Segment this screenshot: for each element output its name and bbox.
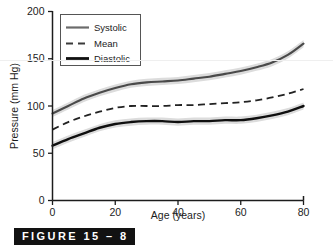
x-tick-label: 0 <box>50 206 56 218</box>
legend-label-systolic: Systolic <box>94 22 127 33</box>
legend-label-diastolic: Diastolic <box>94 53 130 64</box>
blood-pressure-chart: 050100150200 020406080 Pressure (mm Hg) … <box>0 0 333 222</box>
x-axis-title: Age (years) <box>151 209 205 221</box>
y-axis-ticks: 050100150200 <box>27 5 53 206</box>
figure-caption-text: FIGURE 15 – 8 <box>22 231 128 242</box>
x-tick-label: 20 <box>109 206 121 218</box>
y-tick-label: 200 <box>27 5 45 17</box>
diastolic-line <box>53 106 304 146</box>
figure-caption-bar: FIGURE 15 – 8 <box>14 228 135 245</box>
y-tick-label: 50 <box>33 147 45 159</box>
chart-legend: Systolic Mean Diastolic <box>61 15 141 66</box>
x-tick-label: 80 <box>298 206 310 218</box>
y-axis-title: Pressure (mm Hg) <box>8 63 20 149</box>
y-tick-label: 100 <box>27 100 45 112</box>
figure-container: 050100150200 020406080 Pressure (mm Hg) … <box>0 0 333 250</box>
x-tick-label: 60 <box>235 206 247 218</box>
y-tick-label: 150 <box>27 52 45 64</box>
diastolic-band <box>53 102 304 149</box>
y-tick-label: 0 <box>39 194 45 206</box>
legend-label-mean: Mean <box>94 38 118 49</box>
